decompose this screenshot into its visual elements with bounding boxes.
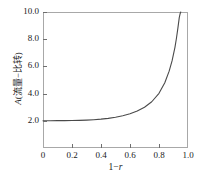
chart-figure: 2.04.06.08.010.0 1−r A(流量−比转) 00.20.40.6…: [0, 0, 203, 187]
x-tick-mark: [130, 144, 131, 148]
y-axis-title-rest: (流量−比转): [13, 52, 23, 99]
y-tick-mark: [43, 39, 47, 40]
curve-layer: [43, 12, 188, 148]
x-axis-title-prefix: 1−: [109, 162, 119, 172]
x-tick-label: 0.8: [144, 150, 174, 160]
y-tick-mark: [43, 66, 47, 67]
x-tick-mark: [101, 144, 102, 148]
x-axis-title-variable: r: [119, 162, 123, 172]
data-series-line: [43, 12, 181, 121]
x-tick-label: 0.4: [86, 150, 116, 160]
y-tick-mark: [43, 121, 47, 122]
y-tick-mark: [43, 12, 47, 13]
y-axis-title: A(流量−比转): [11, 29, 24, 129]
y-tick-mark: [43, 94, 47, 95]
x-tick-mark: [159, 144, 160, 148]
y-axis-title-variable: A: [13, 99, 23, 105]
x-tick-mark: [72, 144, 73, 148]
x-tick-label: 0.6: [115, 150, 145, 160]
y-tick-label: 10.0: [5, 7, 39, 16]
x-tick-label: 1.0: [173, 150, 203, 160]
x-tick-label: 0: [28, 150, 58, 160]
x-axis-title: 1−r: [43, 162, 188, 172]
x-tick-label: 0.2: [57, 150, 87, 160]
